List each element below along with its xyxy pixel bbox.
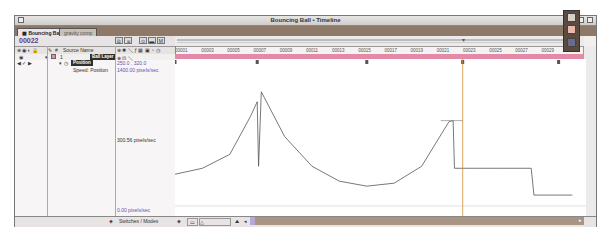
floating-palette — [563, 10, 580, 52]
palette-button-1[interactable] — [567, 13, 576, 22]
speed-row: Speed: Position 1400.00 pixels/sec — [15, 67, 175, 73]
switches-header: ⊕ ✱ ＼ ƒ ▦ ▣ ◔ ◷ — [117, 47, 160, 54]
comp-flowchart-button[interactable]: ⧉ — [115, 37, 123, 44]
keyframe-marker[interactable] — [557, 60, 560, 64]
ruler-tick: 00019 — [411, 47, 424, 54]
window-title: Bouncing Ball • Timeline — [15, 17, 596, 23]
scroll-thumb[interactable] — [250, 217, 255, 225]
speed-label: Speed: Position — [73, 67, 108, 73]
zoom-out-icon[interactable]: ▭ — [187, 218, 198, 226]
current-time-display[interactable]: 00022 — [19, 37, 38, 44]
speed-graph[interactable] — [175, 59, 586, 216]
navigator-track — [177, 39, 574, 41]
keyframe-marker[interactable] — [175, 60, 177, 64]
speed-curve[interactable] — [175, 92, 572, 195]
tab-gravity-comp[interactable]: gravity comp — [59, 28, 97, 36]
expand-icon-2[interactable]: ◈ — [177, 218, 181, 224]
scroll-right-icon[interactable]: ▸ — [579, 217, 582, 223]
ruler-tick: 00021 — [437, 47, 450, 54]
title-bar[interactable]: Bouncing Ball • Timeline — [15, 16, 596, 26]
expand-icon[interactable]: ◈ — [109, 218, 113, 224]
zoom-in-icon[interactable]: ⛰ — [235, 218, 239, 225]
keyframe-marker[interactable] — [256, 60, 259, 64]
stopwatch-icon[interactable]: ◷ — [64, 60, 68, 66]
scroll-left-icon[interactable]: ◂ — [244, 218, 247, 224]
tab-bar: ▣ Bouncing Ball × gravity comp — [15, 26, 596, 36]
toolbar: ⧉⧈ ⊙▬M — [115, 37, 166, 44]
twirl-down-icon[interactable]: ▾ — [59, 60, 62, 66]
marker-button[interactable]: ▬ — [148, 37, 156, 44]
motion-blur-button[interactable]: M — [157, 37, 165, 44]
source-name-header[interactable]: Source Name — [63, 47, 94, 54]
keyframe-marker[interactable] — [365, 60, 368, 64]
speed-max-value: 1400.00 pixels/sec — [117, 67, 158, 73]
position-value[interactable]: 250.0 , 320.0 — [117, 60, 146, 66]
ruler-tick: 00025 — [489, 47, 502, 54]
horizontal-scrollbar[interactable]: ▸ — [250, 217, 584, 225]
zoom-slider[interactable]: △ — [199, 218, 231, 226]
divider — [47, 46, 48, 216]
ruler-tick: 00027 — [515, 47, 528, 54]
layer-button[interactable]: ⧈ — [124, 37, 132, 44]
ruler-tick: 00001 — [175, 47, 188, 54]
property-name: Position — [71, 60, 93, 66]
ruler-tick: 00011 — [306, 47, 318, 54]
label-icon: ✎ — [48, 47, 52, 54]
ruler-tick: 00015 — [358, 47, 371, 54]
label-color-swatch[interactable] — [51, 54, 56, 59]
navigator-track-2 — [177, 42, 574, 43]
timecode-row: 00022 ⧉⧈ ⊙▬M — [15, 36, 175, 46]
palette-button-3[interactable] — [567, 38, 576, 47]
keyframe-navigator[interactable]: ◀ ✓ ▶ — [17, 60, 32, 66]
position-property-row[interactable]: ◀ ✓ ▶ ▾ ◷ Position 250.0 , 320.0 — [15, 60, 175, 66]
palette-button-2[interactable] — [567, 25, 576, 34]
divider — [115, 46, 116, 216]
ruler-tick: 00023 — [463, 47, 476, 54]
graph-editor-button[interactable]: ⊙ — [139, 37, 147, 44]
timeline-window: Bouncing Ball • Timeline ▣ Bouncing Ball… — [14, 15, 597, 227]
speed-mid-value: 300.56 pixels/sec — [117, 137, 156, 143]
collapse-box[interactable] — [587, 17, 593, 23]
ruler-tick: 00009 — [280, 47, 293, 54]
ruler-tick: 00013 — [332, 47, 345, 54]
speed-min-value: 0.00 pixels/sec — [117, 207, 150, 213]
ruler-tick: 00017 — [384, 47, 397, 54]
current-time-indicator-icon[interactable]: ▾ — [462, 36, 465, 43]
ruler-tick: 00003 — [201, 47, 214, 54]
ruler-tick: 00029 — [541, 47, 554, 54]
switches-modes-toggle[interactable]: Switches / Modes — [119, 218, 158, 224]
av-features-icons: ⊕ ◉ ◐ 🔒 — [17, 47, 38, 54]
ruler-tick: 00007 — [254, 47, 267, 54]
ruler-tick: 00005 — [227, 47, 240, 54]
number-header: # — [55, 47, 58, 54]
time-navigator[interactable]: ▾ — [175, 36, 584, 46]
